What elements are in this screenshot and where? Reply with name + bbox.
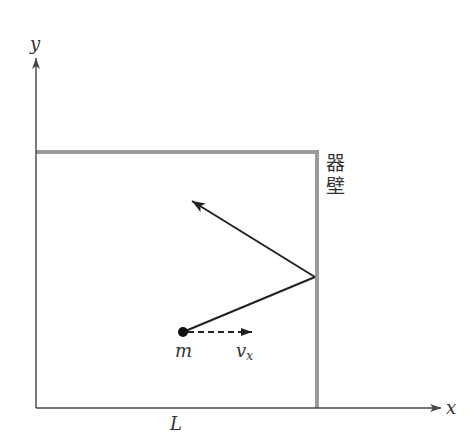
wall-label-1: 器 xyxy=(326,152,345,174)
particle-dot xyxy=(178,327,188,337)
velocity-label: vx xyxy=(236,340,253,363)
incident-path xyxy=(183,277,315,332)
mass-label: m xyxy=(175,340,192,361)
container xyxy=(36,150,317,408)
y-axis-label: y xyxy=(29,33,41,54)
velocity-label-main: v xyxy=(236,340,246,361)
velocity-label-subscript: x xyxy=(246,349,253,363)
wall-label-2: 壁 xyxy=(326,175,345,197)
physics-diagram: y x 器 壁 L m vx xyxy=(0,0,476,438)
reflected-path xyxy=(192,201,315,277)
trajectory xyxy=(183,201,315,332)
x-axis-label: x xyxy=(446,397,456,418)
width-label: L xyxy=(169,413,182,434)
